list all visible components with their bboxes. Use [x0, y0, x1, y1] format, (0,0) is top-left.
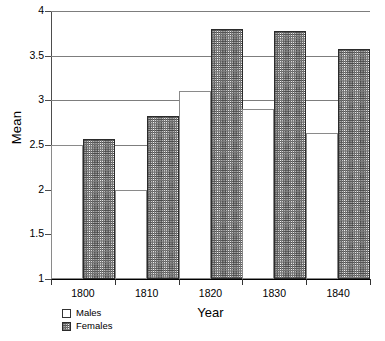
y-axis-tick-label: 2 — [0, 183, 52, 195]
y-axis-tick-label: 1 — [0, 272, 52, 284]
y-axis-tick-label: 3 — [0, 93, 52, 105]
x-axis-tick — [242, 279, 243, 285]
x-axis-tick — [179, 279, 180, 285]
bar-females-1830 — [274, 31, 306, 279]
x-axis-tick — [51, 279, 52, 285]
legend-label: Females — [76, 321, 112, 331]
bar-chart: Mean 11.522.533.54 18001810182018301840 … — [0, 0, 385, 341]
y-axis-tick-label: 3.5 — [0, 49, 52, 61]
bar-females-1820 — [211, 29, 243, 279]
x-axis-tick-label: 1800 — [51, 287, 115, 299]
bar-males-1810 — [115, 190, 147, 279]
x-axis-tick — [370, 279, 371, 285]
bar-females-1810 — [147, 116, 179, 279]
gridline — [51, 11, 370, 12]
bar-males-1840 — [306, 133, 338, 279]
x-axis-tick-label: 1840 — [306, 287, 370, 299]
x-axis-tick-label: 1830 — [242, 287, 306, 299]
x-axis-tick-label: 1820 — [179, 287, 243, 299]
legend-label: Males — [76, 308, 101, 318]
plot-area — [51, 11, 370, 279]
bar-males-1820 — [179, 91, 211, 279]
x-axis-tick-label: 1810 — [115, 287, 179, 299]
y-axis-tick-label: 1.5 — [0, 227, 52, 239]
legend-item-males: Males — [62, 307, 112, 319]
x-axis-tick — [115, 279, 116, 285]
legend-swatch-females — [62, 322, 71, 331]
bar-males-1830 — [242, 109, 274, 279]
bar-females-1840 — [338, 49, 370, 279]
legend: MalesFemales — [62, 307, 112, 333]
bar-females-1800 — [83, 139, 115, 279]
legend-swatch-males — [62, 309, 71, 318]
x-axis-tick — [306, 279, 307, 285]
bar-males-1800 — [51, 145, 83, 279]
legend-item-females: Females — [62, 320, 112, 332]
y-axis-tick-label: 4 — [0, 4, 52, 16]
y-axis-tick-label: 2.5 — [0, 138, 52, 150]
